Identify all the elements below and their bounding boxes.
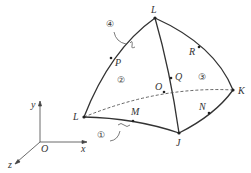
label-L-top: L [151,5,157,15]
label-Q: Q [175,72,182,82]
label-O: O [155,82,162,92]
label-J: J [176,138,180,148]
label-M: M [131,107,139,117]
label-R: R [189,47,195,57]
element-edges [84,18,233,133]
label-N: N [199,102,206,112]
axis-y-label: y [31,100,35,110]
axis-origin-label: O [41,144,48,154]
region-2: ② [117,76,125,85]
label-K: K [238,86,245,96]
label-L-left: L [73,112,79,122]
axis-z-label: z [8,160,12,170]
region-1: ① [97,131,105,140]
region-4: ④ [106,20,114,29]
axis-x-label: x [81,144,85,154]
label-P: P [115,58,121,68]
surface-diagram [0,0,251,173]
region-3: ③ [198,73,206,82]
